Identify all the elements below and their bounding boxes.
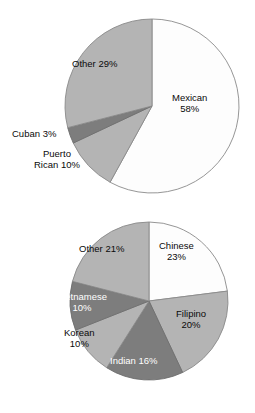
pie-slice-label-line: Rican 10%	[34, 159, 80, 170]
hispanic-pie-graphic	[0, 0, 255, 205]
pie-slice-label-korean: Korean10%	[64, 327, 95, 349]
pie-slice-label-line: Filipino	[176, 308, 206, 319]
pie-slice-label-line: 58%	[172, 103, 207, 114]
pie-slice-label-line: Korean	[64, 327, 95, 338]
pie-slice-label-line: Vietnamese	[57, 291, 107, 302]
pie-slice-label-cuban: Cuban 3%	[12, 128, 56, 139]
pie-slice-label-line: Chinese	[159, 240, 194, 251]
pie-slice-label-line: Other 21%	[79, 243, 124, 254]
asian-pie-graphic	[0, 205, 255, 413]
pie-slice-label-line: Cuban 3%	[12, 128, 56, 139]
pie-slice-label-line: 10%	[64, 338, 95, 349]
pie-slice-label-line: Other 29%	[72, 58, 117, 69]
pie-slice-label-line: 20%	[176, 319, 206, 330]
pie-slice-label-other: Other 21%	[79, 243, 124, 254]
pie-slice-label-line: Indian 16%	[110, 355, 158, 366]
pie-slice-label-chinese: Chinese23%	[159, 240, 194, 262]
hispanic-origin-pie-chart: Mexican58%PuertoRican 10%Cuban 3%Other 2…	[0, 0, 255, 205]
pie-slice-label-line: Puerto	[34, 148, 80, 159]
pie-slice-label-mexican: Mexican58%	[172, 92, 207, 114]
pie-slice-label-puerto-rican: PuertoRican 10%	[34, 148, 80, 170]
pie-slice-label-vietnamese: Vietnamese10%	[57, 291, 107, 313]
pie-slice-label-filipino: Filipino20%	[176, 308, 206, 330]
pie-slice-label-line: 10%	[57, 302, 107, 313]
pie-slice-label-indian: Indian 16%	[110, 355, 158, 366]
pie-slice-label-other: Other 29%	[72, 58, 117, 69]
pie-slice-label-line: Mexican	[172, 92, 207, 103]
asian-origin-pie-chart: Chinese23%Filipino20%Indian 16%Korean10%…	[0, 205, 255, 413]
pie-slice-label-line: 23%	[159, 251, 194, 262]
